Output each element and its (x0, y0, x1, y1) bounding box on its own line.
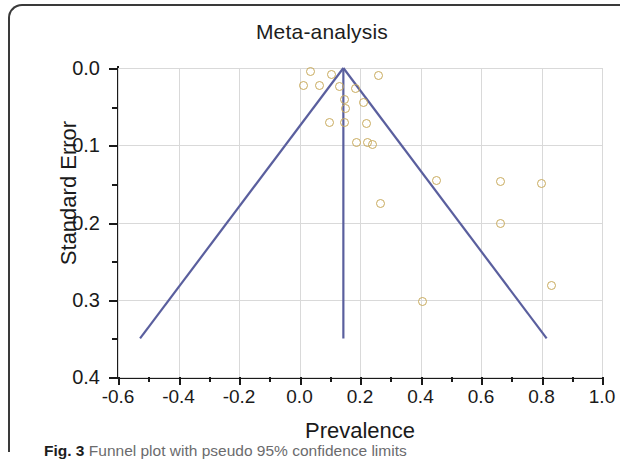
x-tick-minor (451, 377, 453, 382)
gridline-vertical (602, 68, 603, 377)
x-tick-major (360, 377, 362, 385)
funnel-right-limit (343, 68, 546, 338)
y-axis-title: Standard Error (56, 28, 82, 358)
x-tick-label: -0.6 (83, 386, 153, 408)
x-tick-label: 0.6 (446, 386, 516, 408)
data-point (306, 67, 315, 76)
x-tick-minor (390, 377, 392, 382)
x-tick-minor (148, 377, 150, 382)
caption-label: Fig. 3 (44, 442, 84, 459)
chart-title: Meta-analysis (10, 20, 624, 44)
data-point (315, 81, 324, 90)
x-tick-label: 0.4 (386, 386, 456, 408)
x-tick-major (542, 377, 544, 385)
x-tick-major (421, 377, 423, 385)
y-tick-major (109, 68, 118, 70)
y-tick-major (109, 223, 118, 225)
data-point (299, 81, 308, 90)
data-point (368, 140, 377, 149)
caption-text: Funnel plot with pseudo 95% confidence l… (89, 442, 407, 459)
y-tick-minor (112, 338, 118, 340)
x-tick-major (179, 377, 181, 385)
x-tick-label: 0.0 (265, 386, 335, 408)
x-tick-minor (572, 377, 574, 382)
x-tick-label: -0.2 (204, 386, 274, 408)
x-tick-minor (330, 377, 332, 382)
figure-caption: Fig. 3 Funnel plot with pseudo 95% confi… (44, 442, 407, 460)
data-point (496, 219, 505, 228)
funnel-confidence-lines (118, 68, 602, 377)
x-tick-major (118, 377, 120, 385)
x-tick-label: 1.0 (567, 386, 624, 408)
x-tick-major (602, 377, 604, 385)
x-tick-label: 0.2 (325, 386, 395, 408)
x-tick-label: -0.4 (144, 386, 214, 408)
funnel-plot: Meta-analysis 0.00.10.20.30.4 -0.6-0.4-0… (10, 6, 624, 416)
y-tick-major (109, 377, 118, 379)
data-point (418, 297, 427, 306)
x-tick-major (239, 377, 241, 385)
x-tick-label: 0.8 (507, 386, 577, 408)
data-point (351, 84, 360, 93)
x-tick-minor (511, 377, 513, 382)
figure-card: Meta-analysis 0.00.10.20.30.4 -0.6-0.4-0… (8, 4, 620, 470)
y-tick-minor (112, 184, 118, 186)
data-point (341, 104, 350, 113)
data-point (547, 281, 556, 290)
plot-box: 0.00.10.20.30.4 -0.6-0.4-0.20.00.20.40.6… (118, 68, 602, 377)
x-tick-minor (269, 377, 271, 382)
x-tick-major (481, 377, 483, 385)
x-axis-title: Prevalence (118, 418, 602, 444)
y-tick-minor (112, 107, 118, 109)
y-tick-major (109, 145, 118, 147)
funnel-left-limit (140, 68, 343, 338)
data-point (432, 176, 441, 185)
y-tick-major (109, 300, 118, 302)
x-tick-minor (209, 377, 211, 382)
y-tick-minor (112, 261, 118, 263)
data-point (327, 70, 336, 79)
x-tick-major (300, 377, 302, 385)
